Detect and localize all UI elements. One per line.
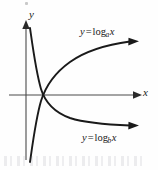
curve-log-base-a-arrowhead (128, 38, 139, 46)
curve-a-label-argument: x (110, 26, 115, 37)
curve-b-label-base: b (108, 136, 112, 145)
logarithm-graph-figure: y x y=logax y=logbx (0, 0, 158, 170)
curve-b-label-equals: = (87, 132, 95, 143)
curve-a-label-base: a (106, 30, 110, 39)
curve-label-log-base-a: y=logax (80, 27, 114, 38)
graph-canvas (0, 0, 158, 170)
curve-a-label-equals: = (85, 26, 93, 37)
page-bleedthrough-artifact (4, 156, 144, 166)
curve-a-label-function: log (93, 26, 106, 37)
x-axis-arrowhead (133, 91, 142, 98)
curve-log-base-b (30, 28, 130, 126)
curve-b-label-argument: x (112, 132, 117, 143)
x-axis-label: x (143, 87, 148, 98)
curve-log-base-a (30, 42, 130, 163)
curve-log-base-b-arrowhead (128, 122, 139, 130)
curve-a-label-variable: y (80, 26, 85, 37)
y-axis-label: y (29, 9, 34, 20)
curve-label-log-base-b: y=logbx (82, 133, 116, 144)
curve-b-label-variable: y (82, 132, 87, 143)
curve-b-label-function: log (95, 132, 108, 143)
y-axis-arrowhead (22, 20, 29, 29)
